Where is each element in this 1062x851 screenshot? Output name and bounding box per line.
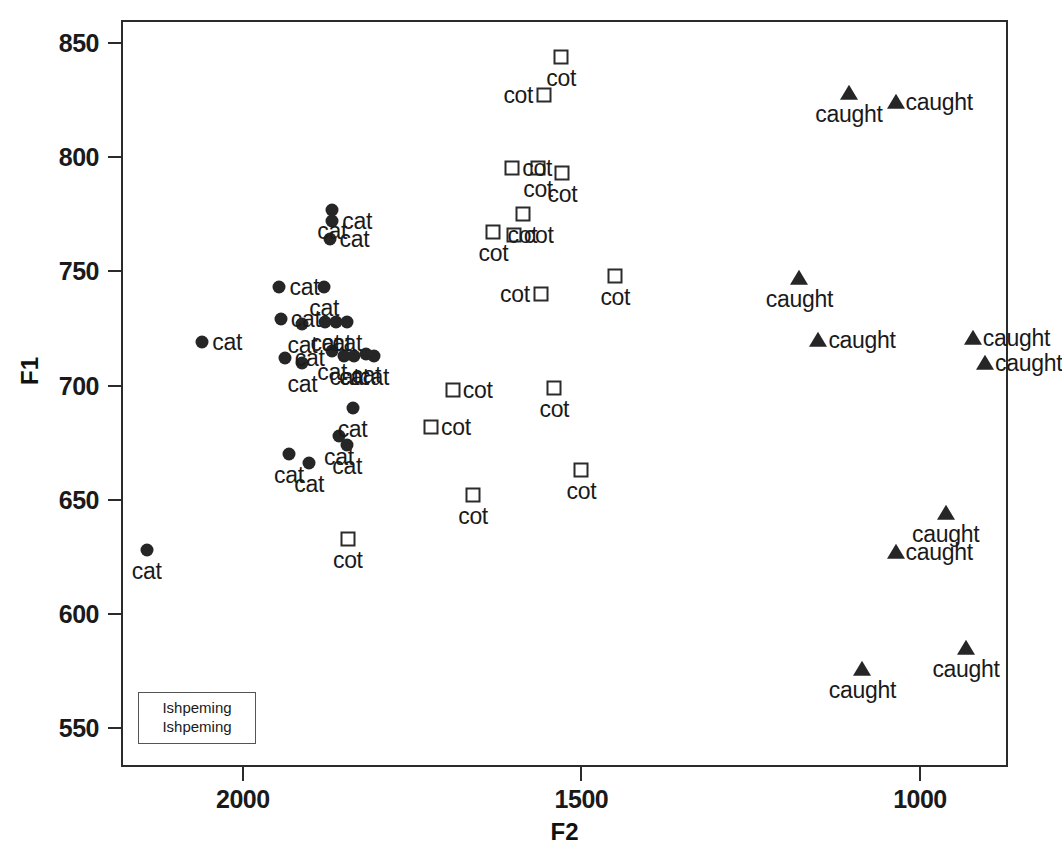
x-tick-mark xyxy=(919,767,921,781)
data-point-caught xyxy=(937,505,955,520)
data-point-label-cat: cat xyxy=(289,274,319,301)
data-point-label-cot: cot xyxy=(500,281,530,308)
data-point-caught xyxy=(957,640,975,655)
data-point-label-caught: caught xyxy=(912,521,979,548)
data-point-label-cot: cot xyxy=(458,503,488,530)
data-point-label-cot: cot xyxy=(600,284,630,311)
y-tick-mark xyxy=(108,727,121,729)
data-point-label-cot: cot xyxy=(539,396,569,423)
x-tick-label: 2000 xyxy=(216,785,270,814)
data-point-cat xyxy=(282,448,295,461)
data-point-label-caught: caught xyxy=(995,349,1062,376)
data-point-cot xyxy=(554,49,569,64)
data-point-cot xyxy=(533,287,548,302)
data-point-cat xyxy=(346,402,359,415)
data-point-cot xyxy=(574,463,589,478)
data-point-label-cat: cat xyxy=(338,416,368,443)
data-point-cat xyxy=(140,543,153,556)
data-point-cot xyxy=(505,161,520,176)
data-point-label-caught: caught xyxy=(906,89,973,116)
data-point-cot xyxy=(486,225,501,240)
data-point-label-caught: caught xyxy=(815,101,882,128)
plot-area xyxy=(121,20,1008,767)
legend: IshpemingIshpeming xyxy=(138,692,256,744)
data-point-cat xyxy=(274,313,287,326)
x-tick-mark xyxy=(242,767,244,781)
data-point-label-cot: cot xyxy=(463,377,493,404)
data-point-label-caught: caught xyxy=(766,286,833,313)
y-tick-label: 700 xyxy=(0,371,99,400)
data-point-cat xyxy=(273,281,286,294)
data-point-cot xyxy=(547,380,562,395)
data-point-label-cot: cot xyxy=(333,547,363,574)
data-point-cot xyxy=(608,268,623,283)
data-point-cat xyxy=(303,457,316,470)
data-point-label-caught: caught xyxy=(932,656,999,683)
data-point-caught xyxy=(790,270,808,285)
data-point-cot xyxy=(424,419,439,434)
y-tick-label: 650 xyxy=(0,485,99,514)
x-axis-title: F2 xyxy=(550,818,578,846)
x-tick-mark xyxy=(580,767,582,781)
data-point-label-cot: cot xyxy=(522,155,552,182)
data-point-cot xyxy=(445,383,460,398)
y-tick-mark xyxy=(108,499,121,501)
y-tick-mark xyxy=(108,613,121,615)
data-point-label-cot: cot xyxy=(441,413,471,440)
data-point-label-cat: cat xyxy=(288,371,318,398)
data-point-caught xyxy=(887,94,905,109)
legend-entry: Ishpeming xyxy=(162,718,231,737)
x-tick-label: 1500 xyxy=(555,785,609,814)
data-point-label-caught: caught xyxy=(828,326,895,353)
data-point-caught xyxy=(809,332,827,347)
y-tick-label: 800 xyxy=(0,143,99,172)
x-tick-label: 1000 xyxy=(893,785,947,814)
data-point-cat xyxy=(318,281,331,294)
data-point-cot xyxy=(340,531,355,546)
data-point-label-cat: cat xyxy=(332,330,362,357)
data-point-cat xyxy=(196,336,209,349)
y-tick-label: 550 xyxy=(0,714,99,743)
data-point-label-cot: cot xyxy=(567,478,597,505)
data-point-label-caught: caught xyxy=(829,677,896,704)
y-tick-label: 850 xyxy=(0,28,99,57)
y-tick-mark xyxy=(108,270,121,272)
data-point-cot xyxy=(466,488,481,503)
data-point-label-cot: cot xyxy=(546,65,576,92)
data-point-caught xyxy=(887,544,905,559)
y-tick-mark xyxy=(108,42,121,44)
data-point-cat xyxy=(341,315,354,328)
data-point-caught xyxy=(853,661,871,676)
data-point-label-cot: cot xyxy=(503,82,533,109)
data-point-caught xyxy=(840,85,858,100)
data-point-caught xyxy=(964,329,982,344)
data-point-label-cat: cat xyxy=(359,364,389,391)
data-point-label-caught: caught xyxy=(983,324,1050,351)
data-point-label-cat: cat xyxy=(294,471,324,498)
legend-entry: Ishpeming xyxy=(162,699,231,718)
data-point-cot xyxy=(515,207,530,222)
y-tick-mark xyxy=(108,385,121,387)
data-point-caught xyxy=(976,354,994,369)
data-point-label-cot: cot xyxy=(508,222,538,249)
data-point-label-cat: cat xyxy=(212,329,242,356)
data-point-label-cat: cat xyxy=(132,558,162,585)
data-point-cot xyxy=(555,166,570,181)
data-point-label-cot: cot xyxy=(478,240,508,267)
y-tick-label: 750 xyxy=(0,257,99,286)
data-point-cat xyxy=(326,203,339,216)
data-point-label-cat: cat xyxy=(317,218,347,245)
data-point-cat xyxy=(368,349,381,362)
y-tick-label: 600 xyxy=(0,599,99,628)
data-point-label-cat: cat xyxy=(332,453,362,480)
y-tick-mark xyxy=(108,156,121,158)
